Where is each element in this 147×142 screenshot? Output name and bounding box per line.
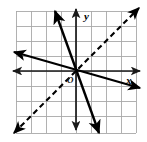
origin-label: O	[67, 75, 74, 85]
y-axis-label: y	[82, 10, 89, 22]
x-axis-label: x	[125, 74, 132, 86]
coordinate-plane-figure: y x O	[0, 0, 147, 142]
graph-canvas: y x O	[0, 0, 147, 142]
